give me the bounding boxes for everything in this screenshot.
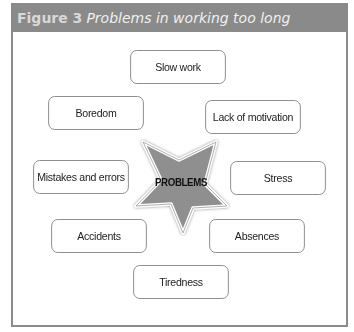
problem-box-boredom: Boredom (48, 96, 144, 130)
figure-header: Figure 3Problems in working too long (11, 3, 348, 32)
figure-title: Problems in working too long (86, 10, 290, 26)
problem-box-slow-work: Slow work (130, 50, 226, 84)
problem-box-tiredness: Tiredness (133, 265, 229, 299)
problem-box-stress: Stress (230, 161, 326, 195)
problem-box-mistakes-and-errors: Mistakes and errors (33, 160, 129, 194)
problem-box-lack-of-motivation: Lack of motivation (205, 100, 301, 134)
figure-number: Figure 3 (17, 10, 82, 26)
center-label: PROBLEMS (155, 176, 208, 188)
